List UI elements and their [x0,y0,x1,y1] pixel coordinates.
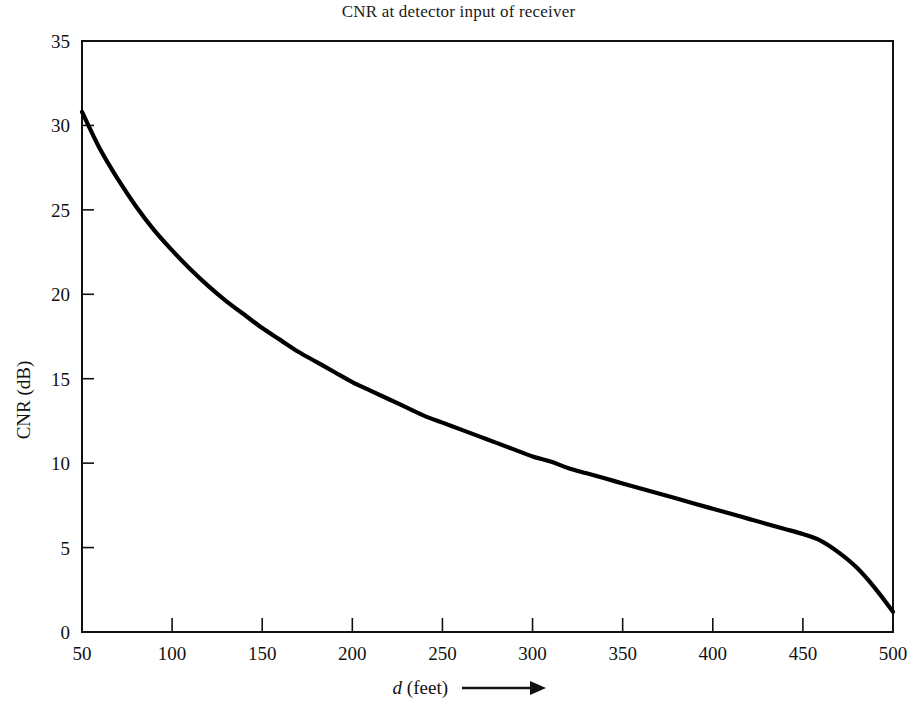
x-tick-label: 400 [699,643,728,664]
y-tick-label: 20 [51,284,70,305]
x-axis-title: d (feet) [393,677,448,699]
x-tick-label: 100 [158,643,187,664]
chart-plot-area: 05101520253035 5010015020025030035040045… [0,0,917,712]
y-tick-label: 5 [61,538,71,559]
x-tick-label: 300 [518,643,547,664]
y-tick-label: 0 [61,622,71,643]
x-axis-arrow-icon [462,681,546,695]
x-tick-label: 350 [608,643,637,664]
x-axis-tick-marks [172,618,803,632]
x-axis-title-variable: d [393,677,403,698]
y-axis-title: CNR (dB) [13,361,35,440]
x-axis-title-units: (feet) [402,677,448,699]
y-tick-label: 10 [51,453,70,474]
x-tick-label: 500 [879,643,908,664]
x-axis-tick-labels: 50100150200250300350400450500 [73,643,908,664]
y-axis-tick-labels: 05101520253035 [51,31,70,643]
chart-figure: CNR at detector input of receiver 051015… [0,0,917,712]
x-tick-label: 250 [428,643,457,664]
y-axis-tick-marks [82,125,94,547]
plot-frame [82,41,893,632]
x-tick-label: 200 [338,643,367,664]
y-tick-label: 25 [51,200,70,221]
x-tick-label: 50 [73,643,92,664]
x-tick-label: 450 [789,643,818,664]
y-tick-label: 30 [51,115,70,136]
x-tick-label: 150 [248,643,277,664]
y-tick-label: 15 [51,369,70,390]
y-tick-label: 35 [51,31,70,52]
data-series-cnr [82,112,893,612]
